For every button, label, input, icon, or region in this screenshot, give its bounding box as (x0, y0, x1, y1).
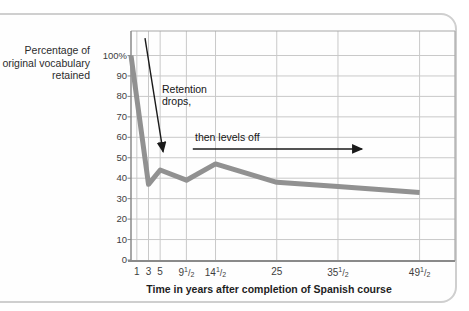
annotation-retention-drops: Retention drops, (162, 83, 220, 107)
x-tick-label: 491/2 (409, 266, 430, 278)
y-tick-label: 90 (85, 70, 127, 82)
x-tick-label: 91/2 (178, 266, 194, 278)
x-tick-label: 3 (146, 266, 152, 277)
retention-line-chart (0, 0, 469, 311)
x-tick-label: 25 (271, 266, 282, 277)
x-axis-title: Time in years after completion of Spanis… (131, 283, 407, 295)
y-tick-label: 30 (85, 193, 127, 205)
y-tick-label: 20 (85, 213, 127, 225)
y-tick-label: 50 (85, 152, 127, 164)
x-tick-label: 351/2 (327, 266, 348, 278)
y-tick-label: 70 (85, 111, 127, 123)
y-tick-label: 60 (85, 131, 127, 143)
x-tick-label: 1 (134, 266, 140, 277)
x-tick-label: 5 (157, 266, 163, 277)
y-tick-label: 10 (85, 234, 127, 246)
y-tick-label: 0 (85, 254, 127, 266)
annotation-then-levels-off: then levels off (195, 131, 260, 143)
y-tick-label: 40 (85, 172, 127, 184)
y-tick-label: 100% (85, 50, 127, 62)
y-tick-label: 80 (85, 90, 127, 102)
x-tick-label: 141/2 (205, 266, 226, 278)
